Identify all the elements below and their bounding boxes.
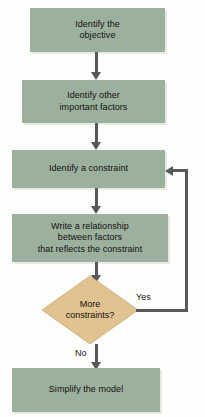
node-more-constraints-decision[interactable]: More constraints? bbox=[42, 276, 138, 344]
node-identify-other-factors[interactable]: Identify other important factors bbox=[22, 80, 165, 123]
arrow-head-constraint-to-relationship bbox=[91, 206, 101, 214]
node-identify-objective-label: Identify the objective bbox=[72, 19, 123, 42]
connector-yes-vertical-up bbox=[185, 169, 188, 312]
edge-label-no: No bbox=[75, 348, 87, 358]
arrow-head-yes-into-constraint bbox=[165, 166, 173, 176]
arrow-head-objective-to-factors bbox=[91, 72, 101, 80]
node-identify-other-factors-label: Identify other important factors bbox=[57, 90, 131, 113]
connector-yes-horizontal-out bbox=[136, 309, 188, 312]
node-identify-constraint[interactable]: Identify a constraint bbox=[12, 150, 165, 188]
node-more-constraints-label: More constraints? bbox=[66, 299, 115, 322]
node-write-relationship[interactable]: Write a relationship between factors tha… bbox=[12, 214, 168, 262]
connector-factors-to-constraint bbox=[95, 123, 98, 144]
edge-label-yes: Yes bbox=[136, 292, 151, 302]
connector-yes-horizontal-in bbox=[172, 169, 188, 172]
node-write-relationship-label: Write a relationship between factors tha… bbox=[35, 221, 145, 256]
connector-objective-to-factors bbox=[95, 52, 98, 74]
arrow-head-factors-to-constraint bbox=[91, 142, 101, 150]
flowchart-canvas: Identify the objective Identify other im… bbox=[0, 0, 205, 417]
node-simplify-model[interactable]: Simplify the model bbox=[12, 368, 160, 412]
connector-no-vertical bbox=[95, 344, 98, 364]
node-identify-objective[interactable]: Identify the objective bbox=[30, 8, 165, 52]
node-simplify-model-label: Simplify the model bbox=[46, 384, 126, 396]
node-identify-constraint-label: Identify a constraint bbox=[46, 163, 131, 175]
connector-constraint-to-relationship bbox=[95, 188, 98, 208]
